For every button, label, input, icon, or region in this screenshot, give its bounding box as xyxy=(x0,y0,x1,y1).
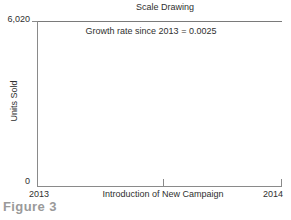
y-axis-label-min: 0 xyxy=(25,176,30,186)
figure-container: Scale Drawing Growth rate since 2013 = 0… xyxy=(0,0,291,220)
x-axis-label-start: 2013 xyxy=(29,189,49,199)
x-axis-label-campaign: Introduction of New Campaign xyxy=(83,189,243,199)
x-axis-line xyxy=(37,186,282,187)
y-axis-line xyxy=(37,21,38,186)
y-axis-title: Units Sold xyxy=(9,66,19,136)
figure-caption: Figure 3 xyxy=(3,199,57,214)
y-axis-tick-max xyxy=(32,21,38,22)
x-axis-tick-2014 xyxy=(281,179,282,187)
plot-top-border xyxy=(37,21,282,22)
x-axis-tick-campaign xyxy=(163,179,164,187)
x-axis-label-end: 2014 xyxy=(263,189,283,199)
growth-rate-annotation: Growth rate since 2013 = 0.0025 xyxy=(56,26,246,36)
y-axis-label-max: 6,020 xyxy=(7,14,30,24)
chart-title: Scale Drawing xyxy=(100,2,230,12)
